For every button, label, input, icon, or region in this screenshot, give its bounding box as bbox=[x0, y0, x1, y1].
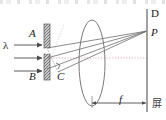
converging-lens bbox=[79, 20, 105, 106]
lens-outline bbox=[79, 20, 105, 106]
incoming-ray-group bbox=[14, 45, 42, 71]
label-bright-point-P: P bbox=[151, 27, 158, 38]
ray-from-B-to-P bbox=[47, 31, 147, 69]
label-angle-vertex-C: C bbox=[57, 71, 64, 82]
label-slit-top-A: A bbox=[29, 28, 36, 39]
diagram-canvas bbox=[0, 0, 166, 120]
label-focal-length-f: f bbox=[119, 94, 122, 105]
label-screen-chinese: 屏 bbox=[152, 99, 162, 109]
slit-barrier bbox=[44, 24, 50, 80]
optics-diagram-figure: λ A B C D P f 屏 bbox=[0, 0, 166, 120]
diffracted-ray-group bbox=[47, 24, 147, 72]
label-slit-bottom-B: B bbox=[29, 71, 36, 82]
label-screen-top-D: D bbox=[151, 8, 159, 19]
ray-from-A-to-P bbox=[47, 31, 147, 48]
label-wavelength: λ bbox=[3, 40, 8, 51]
barrier-upper-block bbox=[44, 24, 50, 48]
